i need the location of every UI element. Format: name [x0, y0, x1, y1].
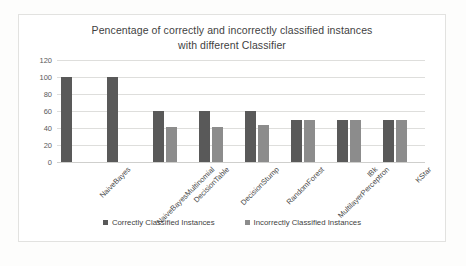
- legend-entry[interactable]: Incorrectly Classified Instances: [245, 218, 361, 227]
- bars-layer: [57, 60, 425, 162]
- bar: [212, 127, 223, 162]
- bar-group: [195, 60, 241, 162]
- chart-title-line-2: with different Classifier: [19, 38, 445, 53]
- legend-swatch-icon: [245, 220, 250, 225]
- chart-title: Pencentage of correctly and incorrectly …: [19, 23, 445, 53]
- chart-legend: Correctly Classified InstancesIncorrectl…: [19, 218, 445, 227]
- bar: [107, 77, 118, 162]
- x-tick-label: NaiveBayes: [98, 165, 133, 200]
- x-tick-label: RandomForest: [285, 165, 326, 206]
- x-tick-label: MultilayerPerceptron: [336, 165, 391, 220]
- bar: [304, 120, 315, 163]
- chart-container: Pencentage of correctly and incorrectly …: [18, 14, 446, 242]
- y-tick-0: 0: [48, 158, 52, 167]
- bar-group: [241, 60, 287, 162]
- bar-group: [57, 60, 103, 162]
- x-tick-label: KStar: [413, 165, 433, 185]
- bar: [153, 111, 164, 162]
- chart-title-line-1: Pencentage of correctly and incorrectly …: [19, 23, 445, 38]
- bar: [245, 111, 256, 162]
- x-tick-label: DecisionStump: [239, 165, 281, 207]
- y-tick-80: 80: [44, 90, 52, 99]
- bar: [350, 120, 361, 163]
- legend-label: Correctly Classified Instances: [112, 218, 215, 227]
- bar-group: [149, 60, 195, 162]
- bar: [199, 111, 210, 162]
- bar-group: [333, 60, 379, 162]
- plot-area: 120100806040200: [57, 60, 425, 162]
- bar: [337, 120, 348, 163]
- y-tick-40: 40: [44, 124, 52, 133]
- bar: [383, 120, 394, 163]
- y-tick-20: 20: [44, 141, 52, 150]
- bar-group: [103, 60, 149, 162]
- bar: [166, 127, 177, 162]
- bar: [396, 120, 407, 163]
- y-tick-120: 120: [39, 56, 52, 65]
- y-tick-60: 60: [44, 107, 52, 116]
- y-tick-100: 100: [39, 73, 52, 82]
- bar-group: [379, 60, 425, 162]
- legend-label: Incorrectly Classified Instances: [254, 218, 361, 227]
- bar: [258, 125, 269, 162]
- legend-swatch-icon: [103, 220, 108, 225]
- gridline-0: [57, 162, 425, 163]
- bar: [61, 77, 72, 162]
- legend-entry[interactable]: Correctly Classified Instances: [103, 218, 215, 227]
- bar-group: [287, 60, 333, 162]
- bar: [291, 120, 302, 163]
